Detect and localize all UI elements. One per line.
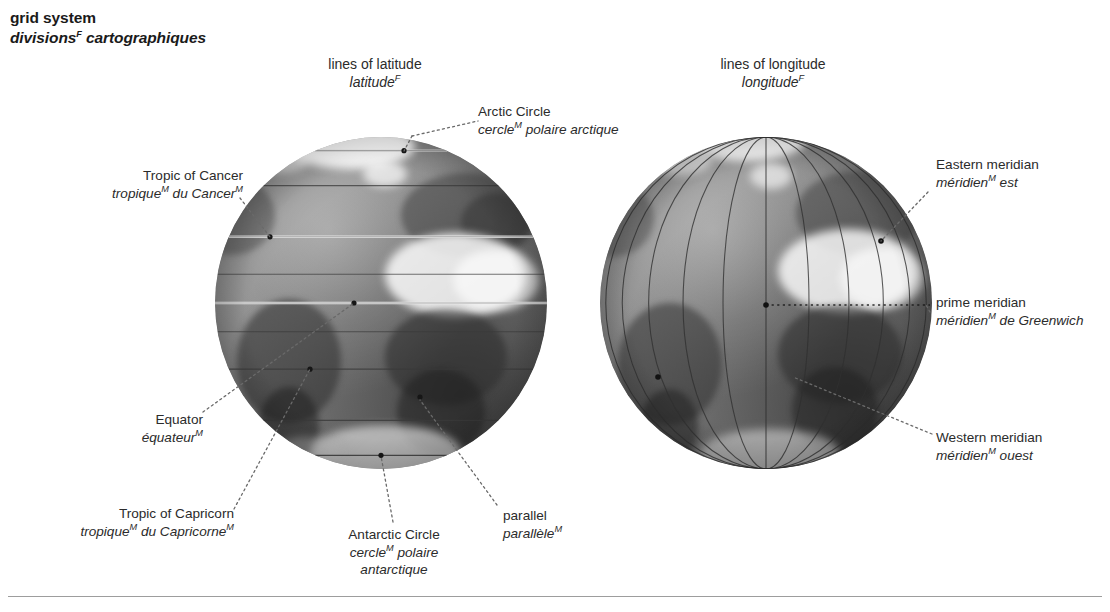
gender-marker: M [386,543,394,553]
gender-marker: M [226,522,234,532]
gender-marker: M [161,184,169,194]
callout-arctic-circle: Arctic Circle cercleM polaire arctique [478,103,619,138]
callout-prime-meridian: prime meridian méridienM de Greenwich [936,294,1083,329]
tropic-of-capricorn-english: Tropic of Capricorn [0,505,234,523]
anchor-dot-prime-meridian [763,302,769,308]
heading-latitude-french-word: latitude [350,74,395,90]
gender-marker: F [76,29,82,39]
tropic-of-cancer-french: tropiqueM du CancerM [0,185,243,203]
parallel-english: parallel [503,507,562,525]
callout-tropic-of-cancer: Tropic of Cancer tropiqueM du CancerM [0,167,243,202]
meridian-30-east [766,137,849,469]
gender-marker: M [988,311,996,321]
tropic-of-capricorn-french: tropiqueM du CapricorneM [0,523,234,541]
meridian-75-east [766,137,926,469]
heading-lines-of-longitude: lines of longitude longitudeF [623,55,923,91]
meridian-15-west [723,137,766,469]
anchor-dot-equator [351,300,356,305]
heading-longitude-french: longitudeF [623,73,923,91]
equator-french: équateurM [0,429,203,447]
heading-latitude-french: latitudeF [225,73,525,91]
gender-marker: F [395,74,401,84]
gender-marker: F [799,74,805,84]
bottom-divider [8,596,1102,597]
gender-marker: M [195,428,203,438]
eastern-meridian-french: méridienM est [936,174,1039,192]
meridian-60-west [622,137,766,469]
parallel-french: parallèleM [503,525,562,543]
callout-equator: Equator équateurM [0,411,203,446]
tropic-of-cancer-english: Tropic of Cancer [0,167,243,185]
heading-latitude-english: lines of latitude [225,55,525,73]
heading-lines-of-latitude: lines of latitude latitudeF [225,55,525,91]
gender-marker: M [514,120,522,130]
anchor-dot-capricorn [307,367,312,372]
callout-tropic-of-capricorn: Tropic of Capricorn tropiqueM du Caprico… [0,505,234,540]
title-english: grid system [10,8,206,28]
meridian-15-east [766,137,809,469]
western-meridian-french: méridienM ouest [936,447,1042,465]
antarctic-circle-french-line2: antarctique [298,561,490,579]
page-title: grid system divisionsF cartographiques [10,8,206,49]
meridian-60-east [766,137,910,469]
gender-marker: M [554,524,562,534]
latitude-grid [215,137,547,469]
anchor-dot-parallel [417,394,422,399]
globe-longitude [600,137,932,469]
callout-western-meridian: Western meridian méridienM ouest [936,429,1042,464]
arctic-circle-french: cercleM polaire arctique [478,121,619,139]
gender-marker: M [988,173,996,183]
anchor-dot-western-meridian [655,374,661,380]
heading-longitude-english: lines of longitude [623,55,923,73]
western-meridian-english: Western meridian [936,429,1042,447]
callout-eastern-meridian: Eastern meridian méridienM est [936,156,1039,191]
globe-latitude [215,137,547,469]
anchor-dot-arctic [401,148,406,153]
antarctic-circle-french-line1: cercleM polaire [298,544,490,562]
leader-arctic-circle-2 [412,121,478,136]
anchor-dot-eastern-meridian [878,238,884,244]
equator-english: Equator [0,411,203,429]
prime-meridian-english: prime meridian [936,294,1083,312]
title-french-word: divisions [10,29,76,46]
heading-longitude-french-word: longitude [742,74,799,90]
longitude-grid [600,137,932,469]
meridian-75-west [606,137,766,469]
eastern-meridian-english: Eastern meridian [936,156,1039,174]
gender-marker: M [988,446,996,456]
callout-antarctic-circle: Antarctic Circle cercleM polaire antarct… [298,526,490,579]
meridian-30-west [683,137,766,469]
title-french: divisionsF cartographiques [10,28,206,48]
arctic-circle-english: Arctic Circle [478,103,619,121]
anchor-dot-antarctic [378,453,383,458]
callout-parallel: parallel parallèleM [503,507,562,542]
gender-marker: M [235,184,243,194]
prime-meridian-french: méridienM de Greenwich [936,312,1083,330]
title-french-rest: cartographiques [86,29,206,46]
anchor-dot-cancer [267,234,272,239]
antarctic-circle-english: Antarctic Circle [298,526,490,544]
